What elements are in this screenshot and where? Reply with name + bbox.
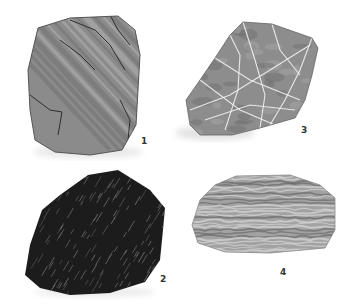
texture-mottle <box>189 17 204 28</box>
texture-mottle <box>180 23 198 31</box>
texture-mottle <box>191 119 203 125</box>
texture-mottle <box>265 78 272 86</box>
texture-streak <box>33 195 37 202</box>
texture-streak <box>143 282 147 289</box>
rock-specimens-illustration <box>0 0 354 307</box>
rock-specimen-2 <box>25 162 170 295</box>
texture-streak <box>64 166 70 175</box>
texture-streak <box>42 188 46 194</box>
texture-streak <box>44 193 49 202</box>
texture-streak <box>119 165 122 170</box>
texture-mottle <box>201 40 215 47</box>
texture-streak <box>162 287 166 293</box>
texture-streak <box>39 187 45 197</box>
texture-streak <box>84 163 89 171</box>
texture-mottle <box>189 58 199 64</box>
texture-streak <box>144 170 147 174</box>
texture-mottle <box>227 125 246 132</box>
texture-streak <box>36 178 39 183</box>
texture-streak <box>27 204 32 213</box>
texture-streak <box>44 162 50 171</box>
texture-mottle <box>234 120 249 125</box>
texture-streak <box>136 166 140 173</box>
texture-streak <box>93 166 96 171</box>
texture-mottle <box>256 63 275 68</box>
texture-mottle <box>205 31 223 40</box>
texture-streak <box>74 166 77 172</box>
texture-mottle <box>267 126 278 134</box>
texture-streak <box>161 187 164 192</box>
texture-mottle <box>310 113 328 122</box>
texture-streak <box>160 259 166 270</box>
texture-mottle <box>213 102 221 108</box>
texture-streak <box>36 183 39 188</box>
texture-streak <box>28 200 33 208</box>
texture-streak <box>124 167 127 172</box>
texture-mottle <box>300 29 312 35</box>
specimen-label-2: 2 <box>160 274 166 284</box>
texture-mottle <box>180 33 197 43</box>
texture-streak <box>27 196 30 201</box>
rock-specimen-4 <box>190 175 354 253</box>
texture-streak <box>73 174 78 183</box>
texture-streak <box>35 193 38 198</box>
texture-streak <box>158 164 162 170</box>
texture-mottle <box>233 27 241 34</box>
texture-streak <box>43 183 49 193</box>
texture-streak <box>148 181 151 186</box>
texture-mottle <box>210 119 224 125</box>
texture-mottle <box>311 76 318 83</box>
texture-mottle <box>308 16 320 25</box>
texture-streak <box>162 166 165 171</box>
texture-mottle <box>310 119 319 123</box>
texture-streak <box>35 186 38 191</box>
texture-mottle <box>300 27 307 32</box>
texture-streak <box>152 184 158 195</box>
texture-streak <box>46 185 50 191</box>
texture-mottle <box>178 74 191 78</box>
texture-streak <box>26 284 31 292</box>
texture-streak <box>26 233 32 242</box>
texture-mottle <box>284 119 299 131</box>
texture-mottle <box>309 118 322 126</box>
texture-streak <box>164 213 170 224</box>
texture-streak <box>28 207 31 212</box>
texture-mottle <box>223 81 238 86</box>
texture-streak <box>160 176 164 183</box>
specimen-label-1: 1 <box>141 136 147 146</box>
texture-streak <box>161 171 167 181</box>
specimen-label-4: 4 <box>280 267 286 277</box>
texture-mottle <box>280 121 293 132</box>
texture-streak <box>149 167 154 176</box>
specimen-label-3: 3 <box>301 125 307 135</box>
texture-mottle <box>200 34 206 43</box>
rock-specimen-3 <box>178 16 328 139</box>
texture-streak <box>66 181 69 186</box>
texture-mottle <box>193 26 204 33</box>
texture-mottle <box>186 55 198 67</box>
texture-mottle <box>301 78 314 83</box>
texture-streak <box>28 205 33 213</box>
texture-mottle <box>180 29 198 40</box>
